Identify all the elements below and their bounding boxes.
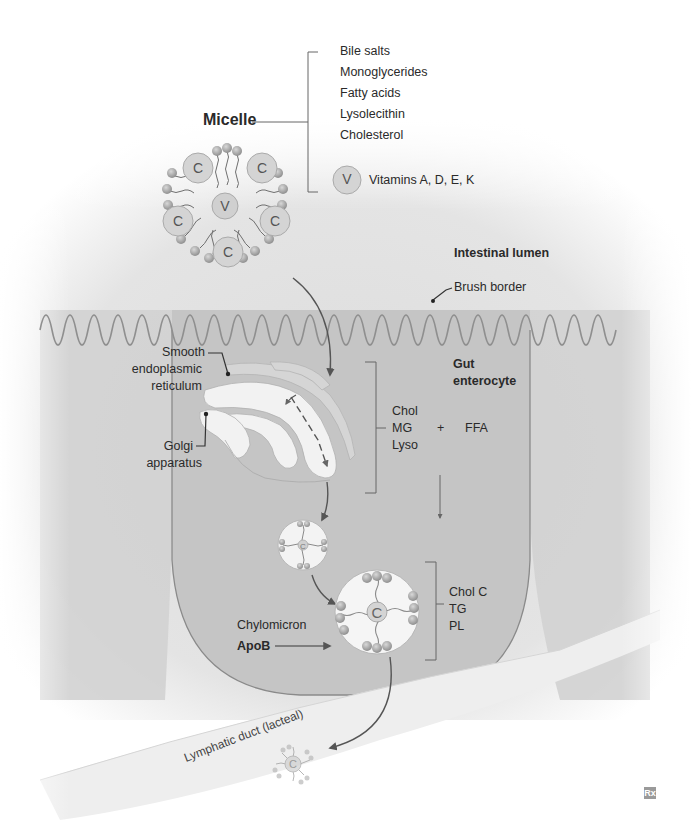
- golgi-label-line1: Golgi: [90, 439, 193, 454]
- rx-logo-icon: Rx: [644, 787, 656, 799]
- svg-text:V: V: [220, 198, 230, 214]
- ser-label-line1: Smooth: [90, 345, 205, 360]
- vitamins-label: Vitamins A, D, E, K: [369, 173, 474, 188]
- component-lysolecithin: Lysolecithin: [340, 104, 428, 125]
- chylomicron: C: [335, 570, 419, 654]
- svg-text:C: C: [223, 244, 233, 260]
- ser-label-line2: endoplasmic: [90, 362, 202, 377]
- svg-text:C: C: [372, 604, 383, 621]
- gut-enterocyte-label-line2: enterocyte: [453, 374, 516, 389]
- plus-sign: +: [437, 421, 444, 436]
- ser-label-line3: reticulum: [90, 379, 202, 394]
- absorbed-mg: MG: [392, 421, 412, 436]
- nascent-chylomicron: C: [278, 520, 328, 570]
- svg-text:C: C: [193, 160, 203, 176]
- svg-text:C: C: [289, 758, 297, 770]
- component-monoglycerides: Monoglycerides: [340, 62, 428, 83]
- component-fatty-acids: Fatty acids: [340, 83, 428, 104]
- absorbed-lyso: Lyso: [392, 438, 418, 453]
- svg-text:C: C: [257, 160, 267, 176]
- svg-text:C: C: [270, 213, 280, 229]
- svg-text:C: C: [173, 213, 183, 229]
- golgi-label-line2: apparatus: [90, 456, 202, 471]
- chylo-content-pl: PL: [449, 619, 464, 634]
- brush-border-label: Brush border: [454, 280, 526, 295]
- apob-label: ApoB: [237, 639, 270, 654]
- chylo-content-tg: TG: [449, 602, 466, 617]
- fat-absorption-diagram: C C C C C V: [0, 0, 691, 824]
- gut-enterocyte-label-line1: Gut: [453, 357, 475, 372]
- vitamin-legend-symbol: V: [342, 172, 352, 187]
- intestinal-lumen-label: Intestinal lumen: [454, 246, 549, 261]
- absorbed-chol: Chol: [392, 404, 418, 419]
- chylo-content-chol-c: Chol C: [449, 585, 487, 600]
- chylomicron-label: Chylomicron: [237, 618, 306, 633]
- component-bile-salts: Bile salts: [340, 41, 428, 62]
- micelle-title: Micelle: [203, 112, 256, 127]
- ffa-label: FFA: [465, 421, 488, 436]
- svg-text:C: C: [300, 542, 306, 551]
- micelle-components-list: Bile salts Monoglycerides Fatty acids Ly…: [340, 41, 428, 146]
- component-cholesterol: Cholesterol: [340, 125, 428, 146]
